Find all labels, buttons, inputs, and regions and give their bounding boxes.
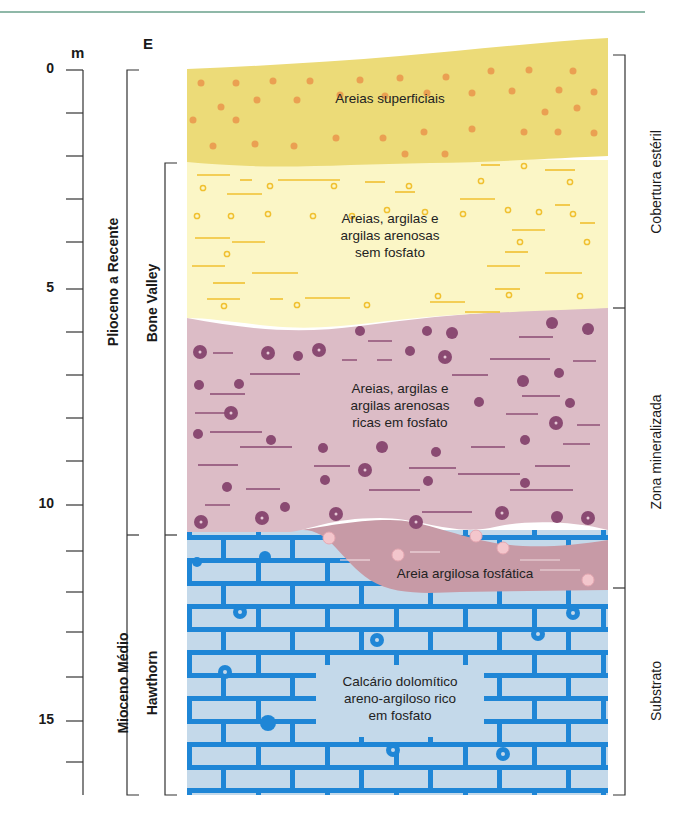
- label-hawthorn: Hawthorn: [144, 643, 160, 723]
- zone-brackets: [613, 55, 625, 795]
- label-ricas-em-fosfato: Areias, argilas e argilas arenosas ricas…: [300, 380, 500, 431]
- label-zona-mineralizada: Zona mineralizada: [648, 382, 664, 522]
- label-areias-superficiais: Areias superficiais: [290, 90, 490, 107]
- label-substrato: Substrato: [648, 641, 664, 741]
- label-plioceno-a-recente: Plioceno a Recente: [105, 212, 121, 352]
- label-calcario-dolomitico: Calcário dolomítico areno-argiloso rico …: [300, 673, 500, 724]
- depth-axis: [66, 70, 83, 795]
- label-areia-argilosa-fosfatica: Areia argilosa fosfática: [365, 565, 565, 582]
- label-cobertura-esteril: Cobertura estéril: [648, 112, 664, 252]
- formation-brackets: [165, 163, 177, 795]
- label-mioceno-medio: Mioceno Médio: [115, 628, 131, 738]
- label-bone-valley: Bone Valley: [144, 258, 160, 348]
- label-sem-fosfato: Areias, argilas e argilas arenosas sem f…: [290, 210, 490, 261]
